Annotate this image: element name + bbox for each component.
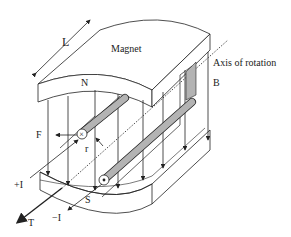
label-current-out: −I	[52, 212, 61, 223]
label-magnet: Magnet	[111, 43, 142, 54]
current-in-lead	[30, 140, 78, 178]
into-page-symbol: ×	[79, 130, 84, 139]
label-force: F	[36, 129, 42, 140]
label-magnetic-field: B	[213, 77, 220, 88]
label-torque: T	[28, 217, 34, 228]
label-axis-of-rotation: Axis of rotation	[213, 57, 276, 68]
dc-motor-diagram: × L Magnet N Axis of rotation B F r +I S…	[0, 0, 291, 237]
label-current-in: +I	[14, 179, 23, 190]
label-length: L	[62, 35, 69, 49]
lower-magnet	[40, 128, 210, 213]
upper-magnet	[38, 20, 210, 107]
label-radius: r	[85, 143, 89, 154]
label-south-pole: S	[85, 194, 91, 205]
radius-arrow	[96, 138, 103, 146]
label-north-pole: N	[81, 77, 88, 88]
